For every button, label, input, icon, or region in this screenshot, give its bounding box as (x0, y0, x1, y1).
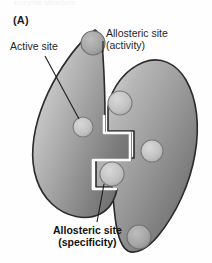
allosteric-site-bottom-right-circle (127, 225, 151, 249)
enzyme-allosteric-diagram: enzyme structure (A) Active site Alloste… (0, 0, 212, 263)
label-allosteric-activity-line2: (activity) (106, 39, 145, 51)
allosteric-site-specificity-circle (100, 162, 124, 186)
label-allosteric-site-activity: Allosteric site(activity) (106, 28, 168, 52)
cropped-header-text: enzyme structure (14, 0, 75, 8)
label-allosteric-site-specificity: Allosteric site(specificity) (53, 225, 122, 249)
panel-letter: (A) (13, 14, 29, 26)
label-active-site: Active site (10, 41, 58, 53)
allosteric-site-mid-right-circle (141, 140, 163, 162)
label-allosteric-activity-line1: Allosteric site (106, 27, 168, 39)
label-allosteric-specificity-line2: (specificity) (53, 237, 122, 249)
allosteric-site-upper-right-circle (108, 91, 132, 115)
active-site-circle (73, 117, 93, 137)
label-allosteric-specificity-line1: Allosteric site (53, 224, 122, 236)
allosteric-site-activity-circle (81, 31, 105, 55)
